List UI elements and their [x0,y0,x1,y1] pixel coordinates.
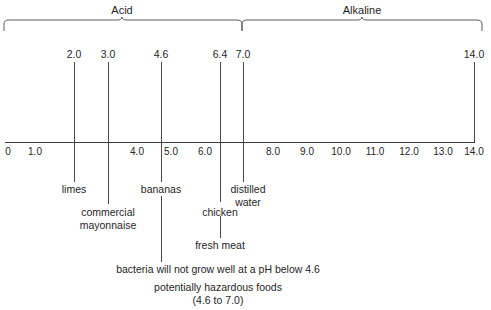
label-limes: limes [62,183,87,195]
top-value-4-6: 4.6 [154,48,169,60]
acid-region-label: Acid [111,4,132,16]
marker-line-7-0 [243,62,244,182]
label-distilled: distilled [230,183,265,195]
label-mayonnaise: mayonnaise [80,219,137,231]
axis-tick-14: 14.0 [464,146,483,157]
axis-tick-13: 13.0 [433,146,452,157]
alkaline-bracket [240,17,486,31]
label-chicken: chicken [202,206,238,218]
axis-tick-10: 10.0 [331,146,350,157]
marker-line-14-0 [474,62,475,142]
axis-tick-1: 1.0 [28,146,42,157]
ph-axis-line [5,142,475,143]
top-value-6-4: 6.4 [213,48,228,60]
axis-tick-0: 0 [5,146,11,157]
marker-line-4-6-lower [161,196,162,262]
top-value-2: 2.0 [67,48,82,60]
axis-tick-4: 4.0 [130,146,144,157]
axis-tick-8: 8.0 [266,146,280,157]
axis-tick-11: 11.0 [366,146,385,157]
top-value-14: 14.0 [464,48,484,60]
marker-line-6-4 [220,62,221,202]
marker-line-4-6 [161,62,162,182]
label-bananas: bananas [141,183,181,195]
ph-scale-diagram: Acid Alkaline 2.0 3.0 4.6 6.4 7.0 14.0 0… [0,0,491,310]
marker-line-2-0 [74,62,75,182]
top-value-3: 3.0 [101,48,116,60]
axis-tick-12: 12.0 [399,146,418,157]
label-water: water [235,196,261,208]
note-range: (4.6 to 7.0) [193,294,244,307]
note-bacteria: bacteria will not grow well at a pH belo… [116,263,320,276]
label-commercial: commercial [81,206,135,218]
top-value-7: 7.0 [236,48,251,60]
axis-tick-9: 9.0 [300,146,314,157]
label-fresh-meat: fresh meat [195,239,245,251]
acid-bracket [0,17,246,31]
axis-tick-6: 6.0 [198,146,212,157]
marker-line-3-0 [108,62,109,204]
note-hazardous: potentially hazardous foods [154,281,282,294]
marker-line-6-4-lower [220,216,221,238]
alkaline-region-label: Alkaline [343,4,382,16]
axis-tick-5: 5.0 [164,146,178,157]
